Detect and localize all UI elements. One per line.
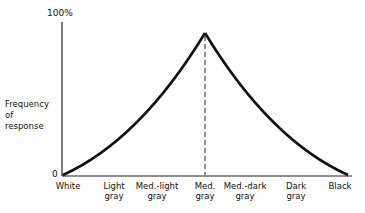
y-tick-100: 100% (47, 8, 73, 18)
x-label-med-dark-gray: Med.-darkgray (218, 181, 272, 201)
y-tick-0: 0 (52, 169, 58, 179)
y-axis-label-line3: response (5, 121, 49, 132)
x-label-black: Black (320, 181, 360, 191)
y-axis-label: Frequency of response (5, 99, 49, 132)
response-curve-right (205, 33, 348, 175)
response-curve-left (63, 33, 205, 175)
x-label-med-light-gray: Med.-lightgray (132, 181, 182, 201)
y-axis-label-line1: Frequency (5, 99, 49, 110)
x-label-white: White (48, 181, 88, 191)
y-axis-label-line2: of (5, 110, 49, 121)
x-label-dark-gray: Darkgray (276, 181, 316, 201)
x-label-light-gray: Lightgray (94, 181, 134, 201)
